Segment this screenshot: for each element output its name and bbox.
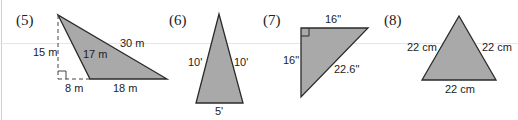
problem-number-6: (6) [169, 13, 187, 28]
label-5-extension: 8 m [65, 83, 83, 94]
label-8-right-side: 22 cm [482, 42, 512, 53]
triangle-problems-figure: (5) (6) (7) (8) 15 m 17 m 30 m 8 m 18 m … [0, 0, 518, 120]
label-5-height: 15 m [33, 47, 57, 58]
label-6-right-side: 10' [234, 57, 248, 68]
label-7-left: 16" [283, 55, 299, 66]
triangle-5-shape [58, 15, 167, 79]
label-5-left-side: 17 m [83, 49, 107, 60]
label-8-left-side: 22 cm [407, 42, 437, 53]
label-5-base: 18 m [113, 83, 137, 94]
label-6-left-side: 10' [188, 57, 202, 68]
problem-number-8: (8) [384, 13, 402, 28]
label-8-base: 22 cm [445, 84, 475, 95]
label-7-hypotenuse: 22.6" [334, 64, 359, 75]
triangles-drawing [0, 0, 518, 120]
label-7-top: 16" [325, 14, 341, 25]
label-5-hypotenuse: 30 m [120, 38, 144, 49]
label-6-base: 5' [215, 106, 223, 117]
right-angle-marker-5 [58, 71, 66, 79]
problem-number-7: (7) [263, 13, 281, 28]
triangle-5 [58, 15, 167, 79]
problem-number-5: (5) [16, 13, 34, 28]
